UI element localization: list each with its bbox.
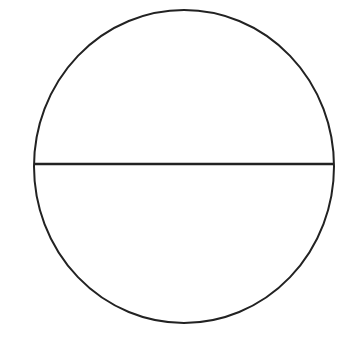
diagram-canvas bbox=[0, 0, 354, 346]
circle-outline bbox=[34, 10, 334, 323]
